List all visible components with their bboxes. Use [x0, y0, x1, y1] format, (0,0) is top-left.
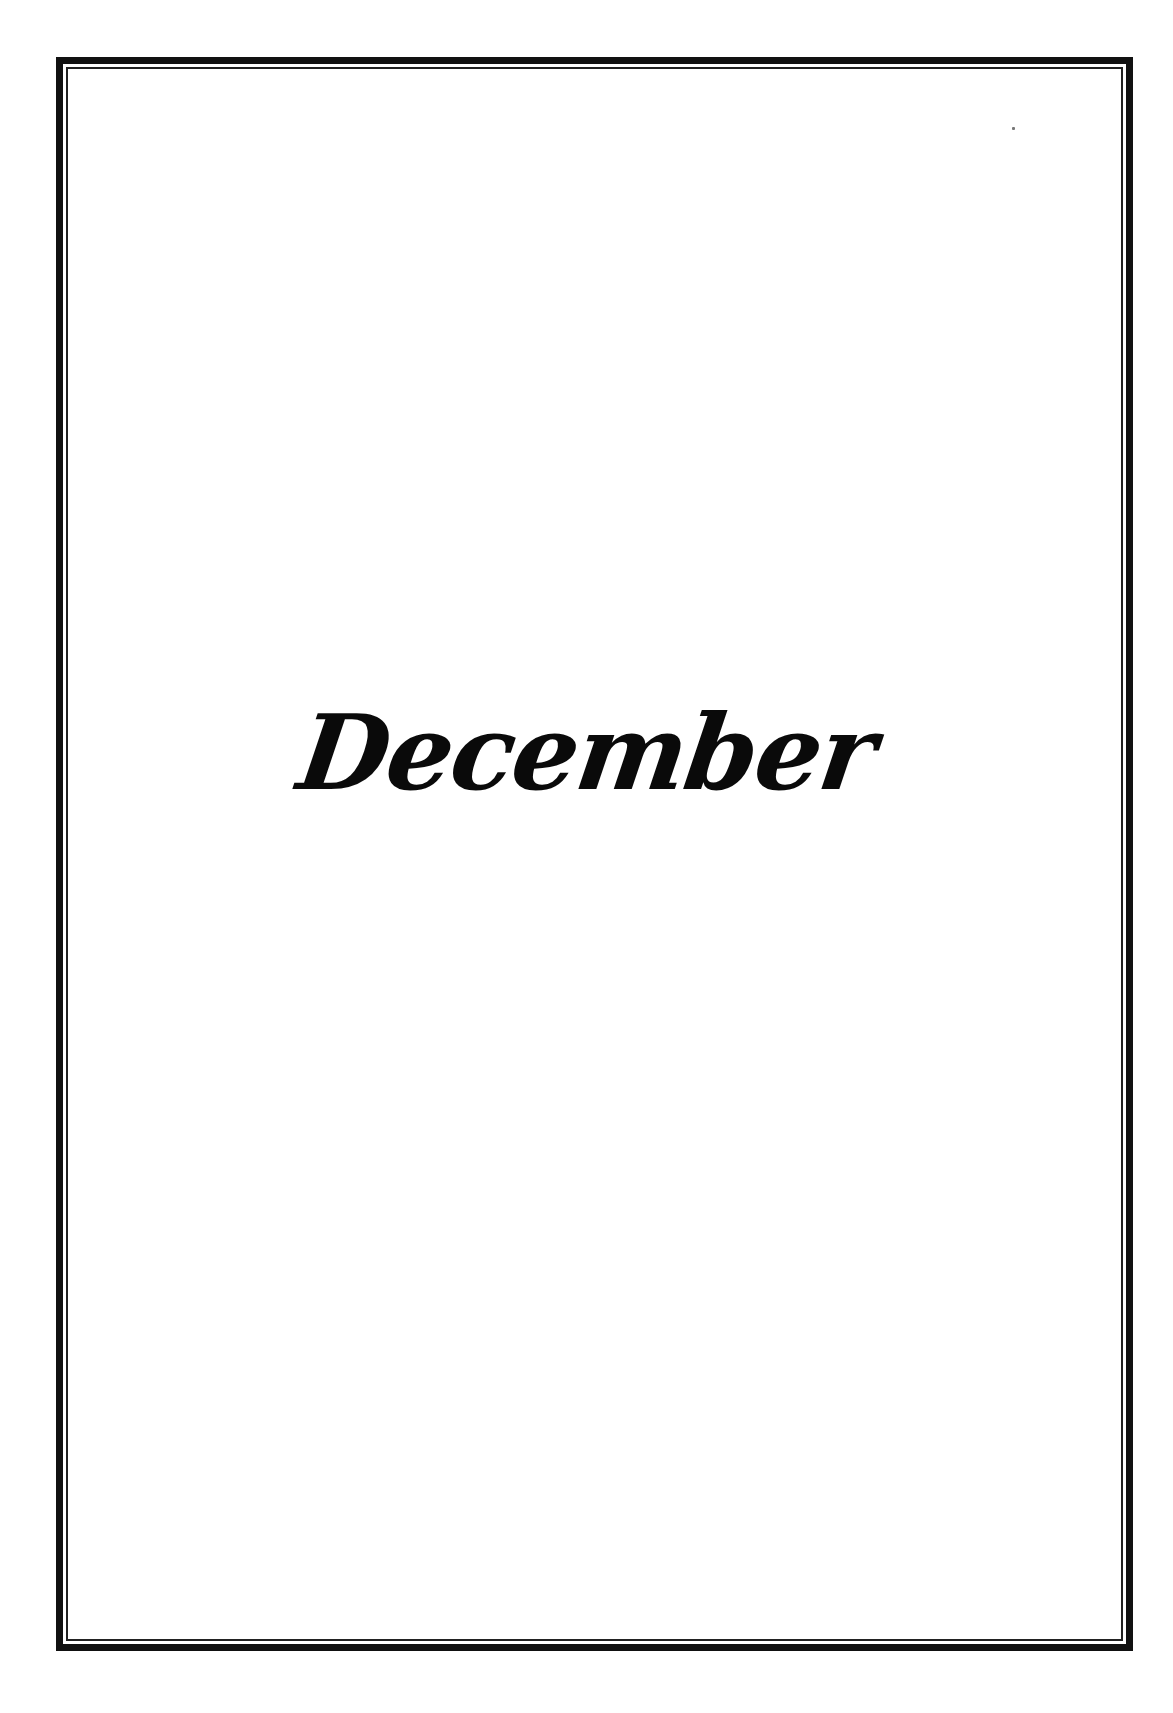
page-title: December [0, 688, 1173, 818]
scan-speck [1012, 127, 1015, 130]
page: December [0, 0, 1173, 1713]
outer-border-frame [56, 57, 1133, 1651]
inner-border-frame [66, 67, 1123, 1641]
